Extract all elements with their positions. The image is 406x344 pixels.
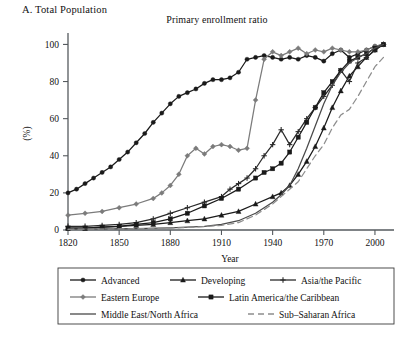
legend-label: Advanced bbox=[101, 276, 140, 286]
data-point-marker bbox=[253, 176, 257, 180]
data-point-marker bbox=[245, 57, 249, 61]
x-tick-label: 1820 bbox=[59, 238, 78, 248]
data-point-marker bbox=[313, 47, 318, 52]
data-point-marker bbox=[151, 220, 155, 224]
data-point-marker bbox=[313, 144, 318, 149]
x-tick-label: 1910 bbox=[212, 238, 231, 248]
series-path bbox=[68, 44, 383, 215]
legend-item-4[interactable]: Eastern Europe bbox=[70, 293, 159, 303]
series-6 bbox=[68, 44, 383, 229]
data-point-marker bbox=[211, 78, 215, 82]
data-point-marker bbox=[91, 176, 95, 180]
y-axis-title: (%) bbox=[22, 126, 33, 140]
series-7 bbox=[68, 57, 383, 229]
data-point-marker bbox=[305, 120, 309, 124]
legend-item-1[interactable]: Advanced bbox=[70, 276, 140, 286]
data-point-marker bbox=[100, 209, 105, 214]
data-point-marker bbox=[245, 146, 250, 151]
data-point-marker bbox=[279, 161, 283, 165]
legend-item-5[interactable]: Latin America/the Caribbean bbox=[198, 293, 340, 303]
legend-label: Latin America/the Caribbean bbox=[229, 293, 340, 303]
series-lines bbox=[65, 42, 386, 231]
legend-item-6[interactable]: Middle East/North Africa bbox=[70, 310, 199, 320]
x-axis-title: Year bbox=[221, 254, 239, 264]
series-path bbox=[68, 44, 383, 226]
data-point-marker bbox=[151, 120, 155, 124]
data-point-marker bbox=[330, 105, 335, 110]
series-path bbox=[68, 57, 383, 229]
data-point-marker bbox=[228, 144, 233, 149]
y-tick-label: 80 bbox=[50, 77, 60, 87]
data-point-marker bbox=[313, 55, 317, 59]
legend-label: Eastern Europe bbox=[101, 293, 159, 303]
data-point-marker bbox=[236, 187, 240, 191]
figure-container: A. Total Population Primary enrollment r… bbox=[0, 0, 406, 344]
data-point-marker bbox=[219, 142, 224, 147]
data-point-marker bbox=[81, 295, 86, 300]
data-point-marker bbox=[253, 98, 258, 103]
data-point-marker bbox=[177, 94, 181, 98]
data-point-marker bbox=[322, 91, 326, 95]
data-point-marker bbox=[168, 102, 172, 106]
data-point-marker bbox=[134, 202, 139, 207]
data-point-marker bbox=[287, 49, 292, 54]
data-point-marker bbox=[228, 76, 232, 80]
y-tick-label: 60 bbox=[50, 114, 60, 124]
data-point-marker bbox=[253, 55, 257, 59]
legend-label: Asia/the Pacific bbox=[301, 276, 361, 286]
data-point-marker bbox=[100, 170, 104, 174]
data-point-marker bbox=[74, 187, 78, 191]
data-point-marker bbox=[117, 205, 122, 210]
data-point-marker bbox=[126, 150, 130, 154]
data-point-marker bbox=[219, 78, 223, 82]
legend-label: Sub–Saharan Africa bbox=[279, 310, 356, 320]
data-point-marker bbox=[278, 127, 283, 132]
data-point-marker bbox=[202, 81, 206, 85]
data-point-marker bbox=[236, 148, 241, 153]
series-path bbox=[68, 44, 383, 228]
data-point-marker bbox=[185, 205, 190, 210]
data-point-marker bbox=[288, 55, 292, 59]
data-point-marker bbox=[66, 213, 71, 218]
data-point-marker bbox=[194, 87, 198, 91]
series-5 bbox=[66, 42, 386, 230]
chart-plot-area: 0204060801001820185018801910194019702000… bbox=[0, 0, 406, 344]
chart-legend: AdvancedDevelopingAsia/the PacificEaster… bbox=[58, 268, 394, 324]
data-point-marker bbox=[134, 141, 138, 145]
data-point-marker bbox=[185, 91, 189, 95]
data-point-marker bbox=[280, 277, 285, 282]
series-path bbox=[68, 44, 383, 228]
data-point-marker bbox=[347, 49, 352, 54]
data-point-marker bbox=[313, 105, 317, 109]
data-point-marker bbox=[117, 157, 121, 161]
data-point-marker bbox=[185, 211, 189, 215]
x-tick-label: 1970 bbox=[314, 238, 333, 248]
x-tick-label: 1850 bbox=[110, 238, 129, 248]
data-point-marker bbox=[109, 165, 113, 169]
data-point-marker bbox=[160, 111, 164, 115]
series-path bbox=[68, 44, 383, 229]
y-tick-label: 40 bbox=[50, 151, 60, 161]
data-point-marker bbox=[279, 53, 284, 58]
legend-item-2[interactable]: Developing bbox=[170, 276, 246, 286]
series-3 bbox=[65, 42, 386, 229]
data-point-marker bbox=[321, 49, 326, 54]
data-point-marker bbox=[330, 52, 334, 56]
data-point-marker bbox=[236, 70, 240, 74]
axes bbox=[63, 33, 394, 235]
legend-item-3[interactable]: Asia/the Pacific bbox=[270, 276, 361, 286]
y-tick-label: 0 bbox=[54, 225, 59, 235]
data-point-marker bbox=[271, 55, 275, 59]
data-point-marker bbox=[330, 46, 335, 51]
series-4 bbox=[66, 42, 386, 218]
legend-item-7[interactable]: Sub–Saharan Africa bbox=[248, 310, 356, 320]
data-point-marker bbox=[322, 59, 326, 63]
data-point-marker bbox=[219, 196, 223, 200]
legend-label: Middle East/North Africa bbox=[101, 310, 199, 320]
data-point-marker bbox=[209, 295, 213, 299]
data-point-marker bbox=[168, 217, 172, 221]
series-path bbox=[68, 44, 383, 192]
data-point-marker bbox=[117, 224, 121, 228]
x-tick-label: 1940 bbox=[263, 238, 282, 248]
data-point-marker bbox=[271, 167, 275, 171]
